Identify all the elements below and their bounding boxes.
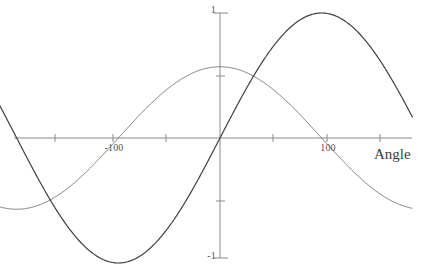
plot-svg [0,0,429,272]
x-tick-label-negative-100: -100 [96,142,132,153]
chart-canvas: -100 100 1 -1 Angle [0,0,429,272]
y-tick-label-one: 1 [204,4,216,15]
x-tick-label-positive-100: 100 [310,142,346,153]
x-axis-title: Angle [374,146,411,163]
y-tick-label-negative-one: -1 [196,250,216,261]
